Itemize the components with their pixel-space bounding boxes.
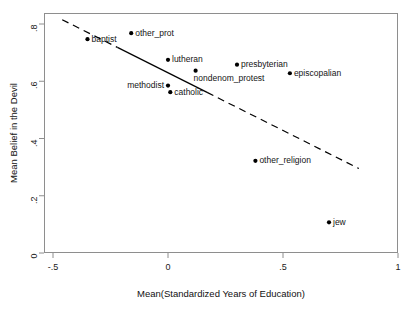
data-point-marker [235, 63, 239, 67]
data-point-markers [85, 31, 331, 224]
data-point-marker [166, 58, 170, 62]
data-point-marker [194, 69, 198, 73]
data-point-marker [166, 83, 170, 87]
axis-tick-marks [39, 24, 398, 258]
data-point-marker [327, 220, 331, 224]
chart-canvas: Mean Belief in the Devil Mean(Standardiz… [0, 0, 419, 310]
regression-fit-line [62, 20, 359, 169]
data-point-marker [129, 31, 133, 35]
data-point-marker [85, 37, 89, 41]
data-point-marker [288, 71, 292, 75]
data-point-marker [168, 90, 172, 94]
data-point-marker [253, 159, 257, 163]
scatter-graphics [0, 0, 419, 310]
